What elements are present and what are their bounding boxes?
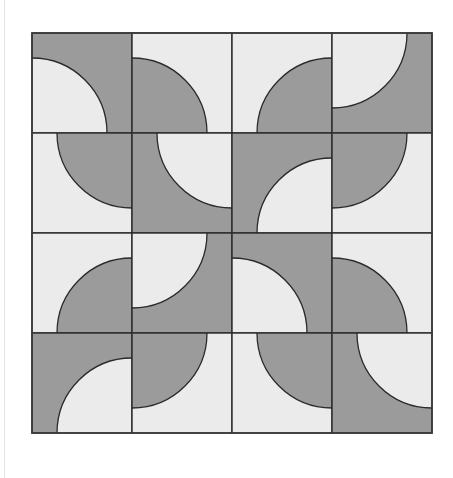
tile-r1-c3: [332, 133, 432, 233]
tile-r2-c1: [132, 233, 232, 333]
tile-r1-c0: [32, 133, 132, 233]
tile-r1-c2: [232, 133, 332, 233]
tile-r0-c1: [132, 33, 232, 133]
tile-r3-c3: [332, 333, 432, 433]
tile-r3-c2: [232, 333, 332, 433]
tile-pattern-board: [0, 0, 453, 478]
tile-r1-c1: [132, 133, 232, 233]
tile-r2-c3: [332, 233, 432, 333]
tile-r3-c1: [132, 333, 232, 433]
tile-r0-c3: [332, 33, 432, 133]
tile-r3-c0: [32, 333, 132, 433]
tile-r2-c2: [232, 233, 332, 333]
tile-r2-c0: [32, 233, 132, 333]
tile-r0-c2: [232, 33, 332, 133]
tile-r0-c0: [32, 33, 132, 133]
